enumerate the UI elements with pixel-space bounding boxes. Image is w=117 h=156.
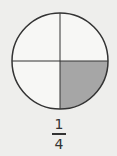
- denominator: 4: [50, 137, 68, 151]
- fraction-bar: [52, 133, 66, 135]
- fraction-label: 1 4: [50, 117, 68, 151]
- numerator: 1: [50, 117, 68, 131]
- fraction-circle: [0, 0, 117, 112]
